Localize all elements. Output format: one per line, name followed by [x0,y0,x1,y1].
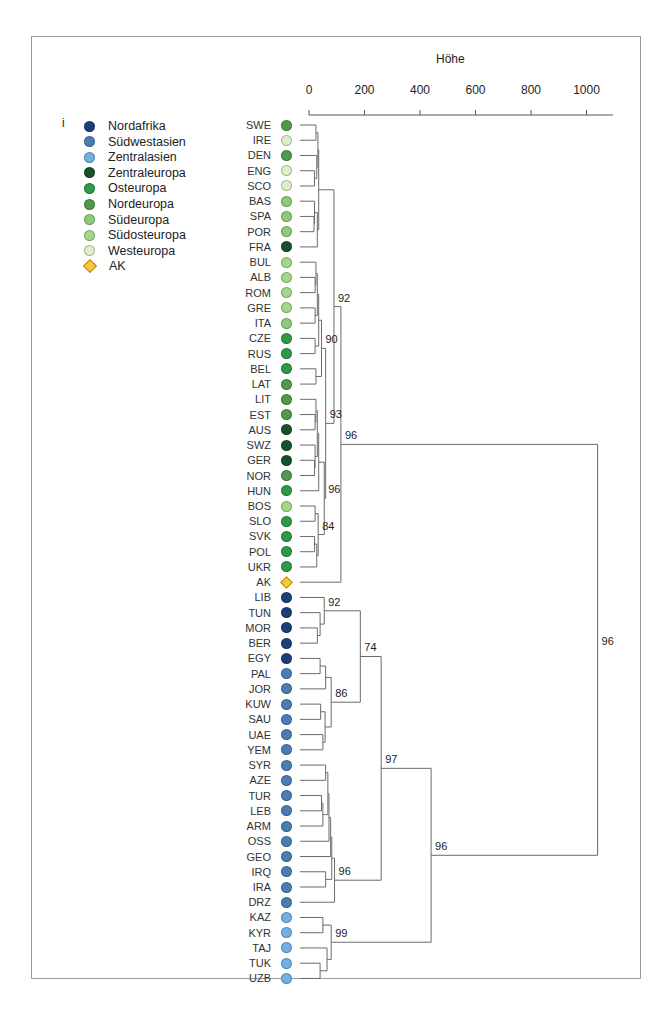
dendrogram [0,0,669,1011]
bootstrap-value: 86 [335,687,347,699]
bootstrap-value: 93 [330,408,342,420]
bootstrap-value: 92 [338,292,350,304]
bootstrap-value: 96 [328,483,340,495]
bootstrap-value: 96 [345,429,357,441]
bootstrap-value: 74 [364,641,376,653]
bootstrap-value: 96 [602,635,614,647]
bootstrap-value: 96 [339,865,351,877]
bootstrap-value: 90 [325,333,337,345]
bootstrap-value: 97 [385,753,397,765]
bootstrap-value: 99 [335,927,347,939]
bootstrap-value: 96 [435,840,447,852]
bootstrap-value: 84 [322,520,334,532]
bootstrap-value: 92 [328,596,340,608]
